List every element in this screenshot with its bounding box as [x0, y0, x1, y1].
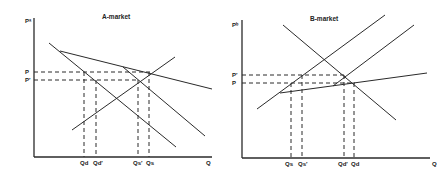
b-market-title: B-market — [310, 15, 338, 22]
diagram-canvas — [0, 0, 444, 177]
b-qd-prime-label: Qd′ — [338, 161, 348, 167]
a-kinked-demand-upper — [60, 51, 212, 89]
a-qd-prime-label: Qd′ — [93, 160, 103, 166]
a-y-axis-label: Pᵃ — [25, 18, 31, 24]
a-qd-label: Qd — [80, 160, 88, 166]
b-y-axis-label: Pᵇ — [232, 22, 238, 28]
a-market-graph — [34, 18, 212, 157]
a-qs-label: Qs — [146, 160, 154, 166]
b-market-graph — [242, 15, 430, 158]
b-qs-label: Qs — [285, 161, 293, 167]
a-price-label-p: P — [25, 69, 29, 75]
b-qs-prime-label: Qs′ — [298, 161, 307, 167]
b-price-label-p: P — [232, 80, 236, 86]
a-qs-prime-label: Qs′ — [133, 160, 142, 166]
b-demand-line — [283, 25, 396, 120]
b-x-axis-label: Q — [432, 161, 437, 167]
b-qd-label: Qd — [351, 161, 359, 167]
a-dashed-guides — [34, 72, 150, 157]
b-dashed-guides — [242, 75, 355, 158]
b-price-label-p-prime: P′ — [232, 72, 237, 78]
a-market-title: A-market — [102, 13, 130, 20]
a-x-axis-label: Q — [206, 160, 211, 166]
a-price-label-p-prime: P′ — [25, 77, 30, 83]
